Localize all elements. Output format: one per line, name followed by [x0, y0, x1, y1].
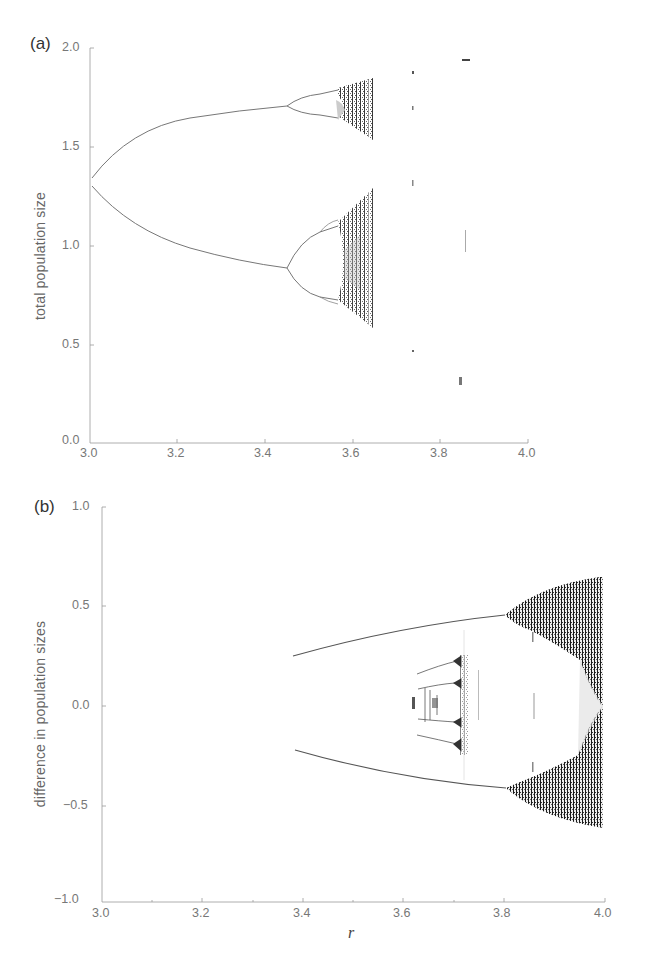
- figure-caption-cropped: [0, 968, 646, 975]
- panel-a-axes: [90, 48, 528, 443]
- figure-canvas: [0, 0, 646, 975]
- panel-b-axes: [102, 507, 605, 902]
- panel-a-bifurcation-data: [92, 59, 470, 385]
- panel-b-bifurcation-data: [293, 577, 603, 828]
